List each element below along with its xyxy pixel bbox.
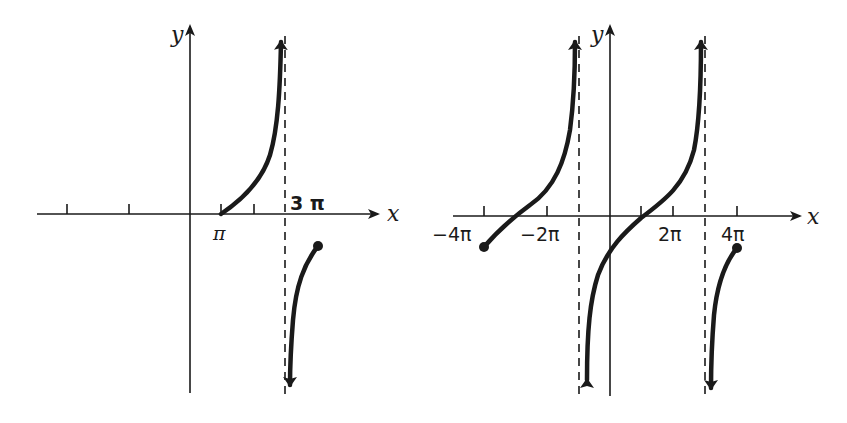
- right-y-label: y: [590, 22, 604, 47]
- left-y-label: y: [170, 22, 184, 47]
- left-tick-label-3pi: 3 π: [290, 192, 325, 214]
- right-tick-label-neg4pi: −4π: [432, 223, 471, 245]
- left-curve-branch-1: [221, 42, 281, 214]
- left-tick-label-pi: π: [212, 222, 226, 244]
- left-graph: y x π 3 π: [37, 22, 400, 395]
- right-curve-branch-2: [587, 42, 701, 380]
- right-curve-branch-3: [711, 248, 737, 388]
- left-x-label: x: [387, 201, 400, 226]
- right-graph: y x −4π −2π 2π 4π: [432, 22, 820, 397]
- right-x-label: x: [807, 204, 820, 229]
- left-curve-branch-2: [290, 246, 318, 385]
- left-endpoint-dot: [313, 241, 323, 251]
- right-tick-label-4pi: 4π: [721, 223, 745, 245]
- right-tick-label-2pi: 2π: [658, 223, 682, 245]
- right-endpoint-dot-left: [479, 242, 489, 252]
- figure-canvas: y x π 3 π y x −4π −2π 2π: [0, 0, 847, 423]
- right-tick-label-neg2pi: −2π: [520, 223, 559, 245]
